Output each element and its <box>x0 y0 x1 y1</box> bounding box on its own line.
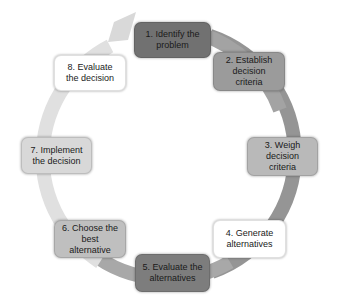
step-7-implement: 7. Implement the decision <box>21 137 92 174</box>
arrow-head <box>108 12 136 42</box>
step-label: 4. Generate alternatives <box>219 228 280 250</box>
step-label: 7. Implement the decision <box>27 145 86 167</box>
step-label: 6. Choose the best alternative <box>60 223 120 256</box>
step-5-evaluate-alternatives: 5. Evaluate the alternatives <box>135 254 210 292</box>
step-label: 8. Evaluate the decision <box>60 62 120 84</box>
step-2-establish-criteria: 2. Establish decision criteria <box>213 52 285 91</box>
step-4-generate-alternatives: 4. Generate alternatives <box>213 220 286 258</box>
step-label: 2. Establish decision criteria <box>219 55 279 88</box>
step-3-weigh-criteria: 3. Weigh decision criteria <box>247 137 318 176</box>
step-1-identify-problem: 1. Identify the problem <box>134 22 211 58</box>
step-8-evaluate-decision: 8. Evaluate the decision <box>54 55 126 91</box>
step-label: 1. Identify the problem <box>140 29 205 51</box>
step-label: 5. Evaluate the alternatives <box>141 262 204 284</box>
step-6-choose-best: 6. Choose the best alternative <box>54 220 126 258</box>
step-label: 3. Weigh decision criteria <box>253 140 312 173</box>
